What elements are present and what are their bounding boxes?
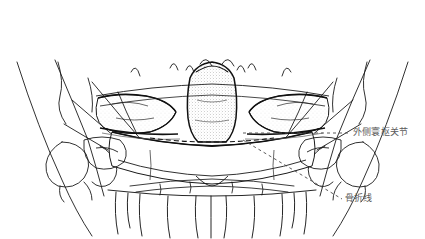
odontoid-process-dens: [187, 62, 236, 142]
c1-lateral-mass-right: [249, 94, 329, 133]
anatomical-illustration: 外侧寰枢关节 骨折线: [0, 0, 425, 239]
mastoid-left: [46, 142, 117, 202]
label-lateral-atlantoaxial-joint: 外侧寰枢关节: [353, 127, 408, 138]
lower-teeth-row: [108, 190, 316, 238]
label-fracture-line: 骨折线: [345, 193, 373, 204]
c1-lateral-mass-left: [96, 94, 176, 133]
